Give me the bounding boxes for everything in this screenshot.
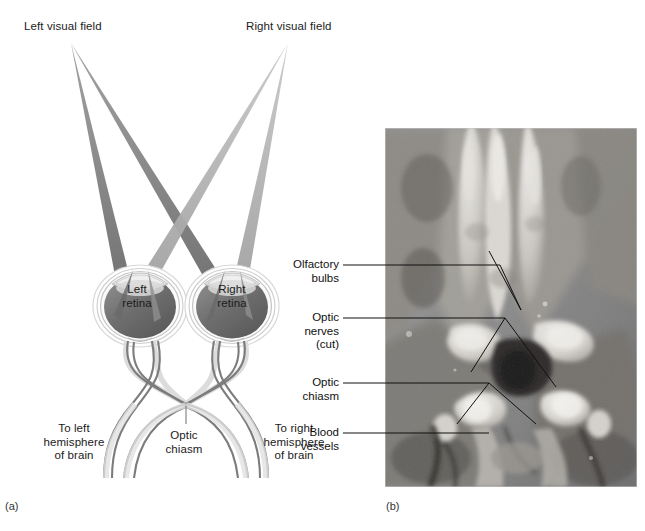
label-to-left-hemisphere: To left hemisphere of brain xyxy=(26,422,122,463)
photo-label-olfactory-bulbs: Olfactory bulbs xyxy=(277,258,339,285)
panel-a-tag: (a) xyxy=(5,500,18,512)
label-right-retina: Right retina xyxy=(199,283,265,310)
brain-specimen-photo xyxy=(385,128,637,487)
label-left-visual-field: Left visual field xyxy=(24,20,102,34)
label-optic-chiasm: Optic chiasm xyxy=(146,429,222,456)
photo-label-blood-vessels: Blood vessels xyxy=(277,426,339,453)
panel-b-photograph: Dr. Dana Copeland xyxy=(385,128,637,487)
label-right-visual-field: Right visual field xyxy=(246,20,332,34)
panel-b-tag: (b) xyxy=(386,500,399,512)
label-left-retina: Left retina xyxy=(104,283,170,310)
photo-label-optic-nerves-cut: Optic nerves (cut) xyxy=(277,311,339,352)
figure-visual-pathway: Left visual field Right visual field Lef… xyxy=(0,0,645,531)
photo-label-optic-chiasm: Optic chiasm xyxy=(277,376,339,403)
